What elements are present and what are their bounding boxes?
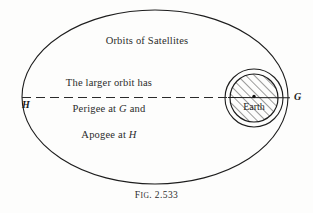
figure-container: Orbits of Satellites The larger orbit ha…	[0, 0, 313, 213]
perigee-label-g: G	[294, 92, 301, 102]
diagram-title: Orbits of Satellites	[106, 36, 189, 47]
note-line-2: Perigee at G and	[73, 104, 146, 115]
orbit-diagram-svg	[0, 0, 313, 213]
note-line-3-point: H	[129, 129, 137, 140]
note-line-2-prefix: Perigee at	[73, 103, 120, 114]
caption-smallcaps: IG	[140, 191, 149, 200]
caption-number: . 2.533	[149, 190, 178, 200]
note-line-3-prefix: Apogee at	[81, 129, 128, 140]
note-line-1: The larger orbit has	[66, 78, 152, 89]
apogee-label-h: H	[22, 100, 30, 110]
figure-caption: FIG. 2.533	[0, 190, 313, 200]
earth-center-dot	[252, 95, 255, 98]
note-line-3: Apogee at H	[81, 130, 136, 141]
note-line-2-suffix: and	[127, 103, 146, 114]
earth-label: Earth	[243, 102, 265, 112]
